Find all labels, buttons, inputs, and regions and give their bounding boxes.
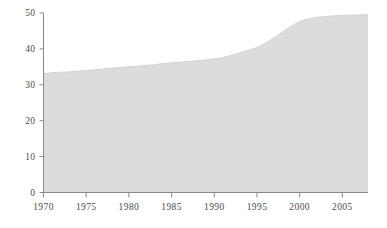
y-axis-tick-label: 20 <box>0 116 36 126</box>
chart-plot-area <box>0 0 387 228</box>
x-axis-tick-label: 1980 <box>119 202 140 212</box>
x-axis-ticks <box>44 193 343 198</box>
y-axis-tick-label: 0 <box>0 188 36 198</box>
y-axis-ticks <box>40 13 44 193</box>
x-axis-tick-label: 1975 <box>76 202 97 212</box>
x-axis-tick-label: 2005 <box>332 202 353 212</box>
area-chart: 01020304050 1970197519801985199019952000… <box>0 0 387 228</box>
x-axis-tick-label: 1995 <box>247 202 268 212</box>
area-fill-group <box>44 15 369 193</box>
y-axis-tick-label: 40 <box>0 44 36 54</box>
x-axis-tick-label: 1985 <box>161 202 182 212</box>
x-axis-tick-label: 1990 <box>204 202 225 212</box>
y-axis-tick-label: 30 <box>0 80 36 90</box>
x-axis-tick-label: 2000 <box>289 202 310 212</box>
y-axis-tick-label: 50 <box>0 8 36 18</box>
x-axis-tick-label: 1970 <box>33 202 54 212</box>
y-axis-tick-label: 10 <box>0 152 36 162</box>
area-series-fill <box>44 15 369 193</box>
